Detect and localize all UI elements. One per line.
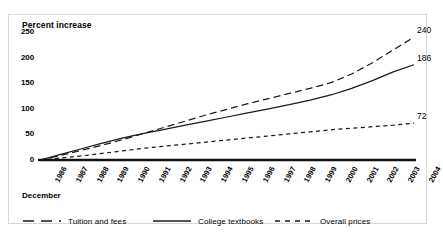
series-end-value-label: 186 <box>417 53 431 63</box>
legend-swatch-long-dash <box>22 217 62 225</box>
legend-swatch-solid <box>152 217 192 225</box>
y-axis-tick-label: 50 <box>8 129 34 138</box>
legend-label: College textbooks <box>198 217 263 226</box>
series-line <box>40 65 414 160</box>
series-line <box>40 123 414 160</box>
y-axis-tick-label: 0 <box>8 155 34 164</box>
legend-item-overall-prices: Overall prices <box>274 214 370 228</box>
x-axis-label: December <box>22 191 61 200</box>
legend-item-college-textbooks: College textbooks <box>152 214 263 228</box>
legend-label: Tuition and fees <box>68 217 126 226</box>
legend-swatch-short-dash <box>274 217 314 225</box>
y-axis-tick-label: 150 <box>8 78 34 87</box>
series-line <box>40 37 414 160</box>
chart-legend: Tuition and fees College textbooks Overa… <box>22 214 422 228</box>
legend-label: Overall prices <box>320 217 370 226</box>
y-axis-tick-label: 100 <box>8 104 34 113</box>
series-end-value-label: 240 <box>417 25 431 35</box>
series-end-value-label: 72 <box>417 111 427 121</box>
legend-item-tuition-and-fees: Tuition and fees <box>22 214 126 228</box>
y-axis-tick-label: 200 <box>8 53 34 62</box>
y-axis-tick-label: 250 <box>8 27 34 36</box>
